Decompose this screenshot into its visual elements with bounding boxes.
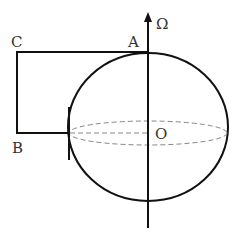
label-o: O	[155, 125, 167, 143]
diagram-canvas: Ω A C B O	[0, 0, 240, 239]
label-a: A	[127, 33, 139, 51]
label-c: C	[11, 33, 22, 51]
label-b: B	[12, 139, 23, 157]
wire-loop	[17, 52, 148, 133]
axis-arrow-icon	[144, 12, 152, 22]
sphere-diagram: Ω A C B O	[0, 0, 240, 239]
label-omega: Ω	[156, 15, 168, 33]
